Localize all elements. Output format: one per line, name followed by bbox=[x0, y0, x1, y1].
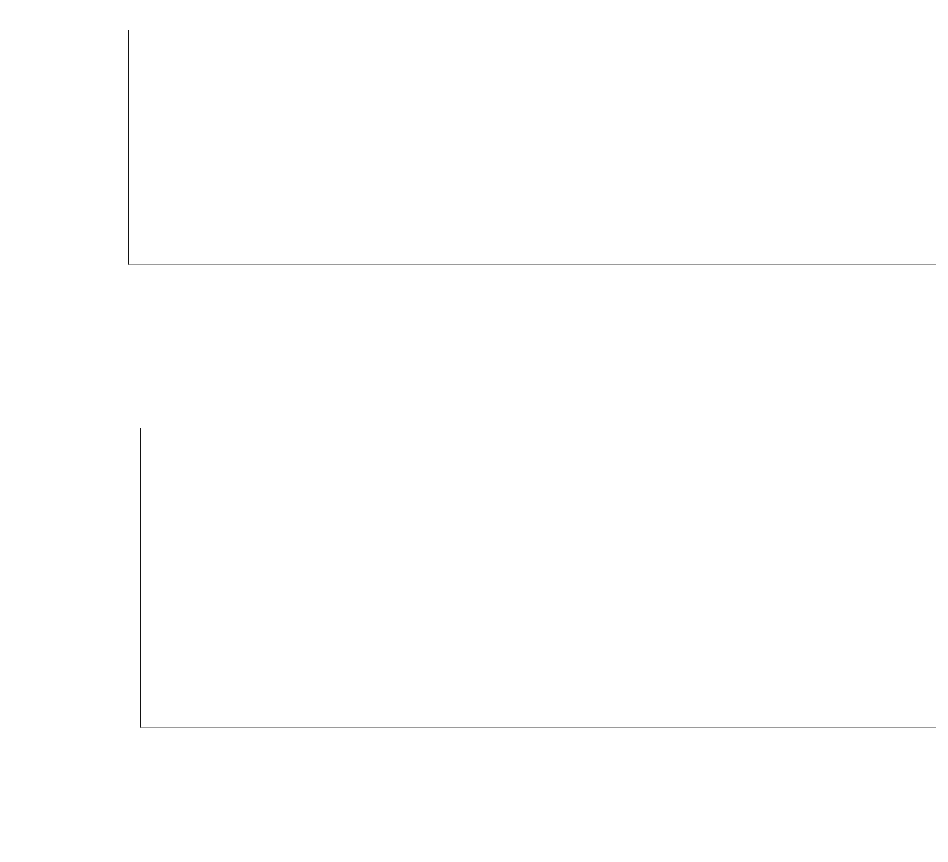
chart-top bbox=[0, 0, 948, 360]
chart-bottom-plot-area bbox=[140, 428, 936, 728]
chart-top-plot-area bbox=[128, 30, 936, 265]
chart-bottom bbox=[0, 400, 948, 862]
